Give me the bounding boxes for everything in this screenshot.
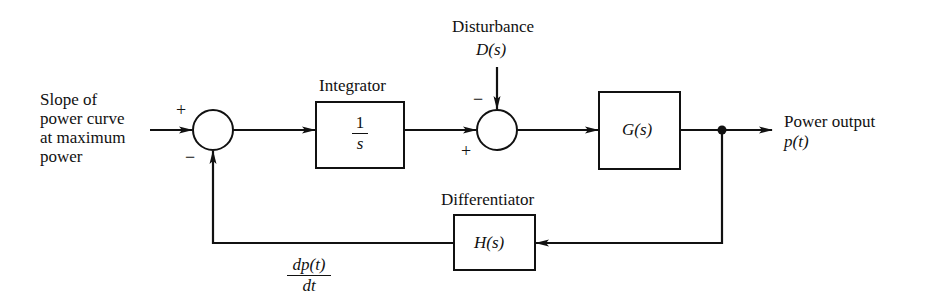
output-label: Power output — [784, 112, 875, 132]
feedback-signal-derivative: dp(t) dt — [287, 255, 331, 296]
input-label: Slope of power curve at maximum power — [40, 90, 125, 166]
input-label-line-4: power — [40, 147, 125, 166]
summing-junction-2 — [477, 110, 517, 150]
disturbance-symbol: D(s) — [476, 40, 506, 60]
junction-1-minus-sign: − — [185, 148, 195, 166]
integrator-numerator: 1 — [352, 113, 368, 134]
feedback-numerator: dp(t) — [287, 255, 331, 276]
plant-symbol: G(s) — [622, 120, 652, 140]
feedback-denominator: dt — [287, 276, 331, 296]
differentiator-symbol: H(s) — [474, 233, 504, 253]
integrator-denominator: s — [352, 134, 368, 154]
disturbance-label: Disturbance — [452, 17, 534, 37]
input-label-line-2: power curve — [40, 109, 125, 128]
integrator-transfer-function: 1 s — [352, 113, 368, 154]
output-symbol: p(t) — [784, 132, 809, 152]
input-label-line-3: at maximum — [40, 128, 125, 147]
summing-junction-1 — [193, 110, 233, 150]
differentiator-label: Differentiator — [441, 190, 534, 210]
junction-1-plus-sign: + — [176, 101, 186, 119]
integrator-label: Integrator — [319, 76, 386, 96]
junction-2-minus-sign: − — [473, 90, 483, 108]
junction-2-plus-sign: + — [461, 142, 471, 160]
input-label-line-1: Slope of — [40, 90, 125, 109]
